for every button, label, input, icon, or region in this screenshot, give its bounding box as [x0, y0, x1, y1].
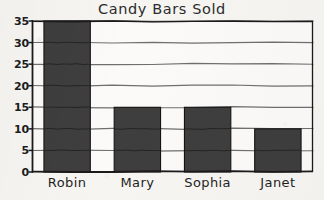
x-tick-label-sophia: Sophia	[184, 175, 231, 190]
y-tick-label-20: 20	[3, 79, 29, 92]
chart-title: Candy Bars Sold	[0, 1, 324, 17]
bar-internal-gridline	[185, 150, 230, 151]
bar-rect	[44, 21, 90, 172]
bar-sophia	[184, 107, 230, 172]
y-tick-label-35: 35	[3, 15, 29, 28]
bar-robin	[44, 21, 90, 172]
plot-area	[32, 21, 313, 172]
bar-rect	[114, 107, 160, 172]
bar-janet	[255, 129, 301, 172]
x-axis-tick-labels: RobinMarySophiaJanet	[32, 175, 313, 197]
x-tick-label-mary: Mary	[120, 175, 154, 190]
y-tick-label-15: 15	[3, 101, 29, 114]
y-tick-label-30: 30	[3, 36, 29, 49]
y-tick-label-25: 25	[3, 58, 29, 71]
bar-rect	[184, 107, 230, 172]
x-tick-label-janet: Janet	[260, 175, 295, 190]
y-tick-label-5: 5	[3, 144, 29, 157]
y-tick-label-0: 0	[3, 166, 29, 179]
y-tick-label-10: 10	[3, 122, 29, 135]
x-axis-baseline	[32, 171, 313, 172]
y-axis-tick-labels: 05101520253035	[0, 21, 29, 172]
x-tick-label-robin: Robin	[48, 175, 87, 190]
bar-internal-gridline	[44, 150, 89, 151]
plot-top-edge	[32, 21, 313, 22]
bar-mary	[114, 107, 160, 172]
plot-canvas	[32, 21, 313, 172]
chart-figure: Candy Bars Sold 05101520253035 RobinMary…	[0, 0, 324, 200]
